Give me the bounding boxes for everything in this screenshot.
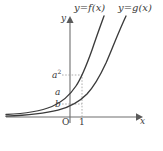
y-axis-label: y [61,14,66,23]
origin-label: O [62,118,69,127]
y-tick-label-a: a [55,88,60,97]
x-tick-label-1: 1 [79,118,85,127]
y-tick-label-a-squared: a2 [52,71,61,80]
y-tick-a-squared-exponent: 2 [57,68,61,75]
x-axis-label: x [140,117,145,126]
y-axis-arrow-icon [66,16,73,23]
curve-g [6,16,126,116]
curve-f-label: y=f(x) [74,3,105,13]
exponential-functions-figure: y=f(x) y=g(x) y x O 1 a2 a b [0,0,163,151]
y-tick-label-b: b [55,100,61,109]
curve-g-label: y=g(x) [118,3,152,13]
figure-canvas [0,0,163,151]
